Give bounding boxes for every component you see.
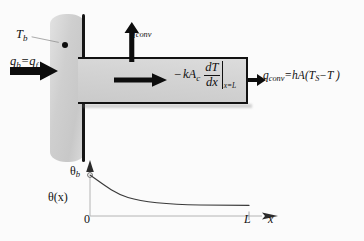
plot-label-theta-x: θ(x)	[48, 190, 68, 205]
plot-label-theta-x-text: θ(x)	[48, 190, 68, 204]
conduction-expression: − kAc dT dx x=L	[174, 61, 236, 89]
fin-shadow	[82, 104, 252, 108]
inflow-arrow	[10, 60, 60, 82]
label-convection-top-subscript: conv	[136, 30, 152, 39]
label-base-temperature-symbol: T	[16, 27, 23, 41]
conduction-arrow-right	[114, 72, 168, 88]
conduction-derivative-fraction: dT dx	[203, 61, 220, 89]
plot-label-length: L	[244, 212, 251, 227]
conduction-kac-symbol: kA	[183, 67, 196, 81]
base-temperature-leader-line	[29, 36, 63, 44]
figure-canvas: Tb qb=qf qconv − kAc dT dx x=L qconv=hA(…	[0, 0, 364, 241]
conduction-derivative-numerator: dT	[203, 61, 220, 75]
plot-label-x-axis: x	[268, 212, 273, 227]
label-convection-top: qconv	[130, 25, 151, 39]
plot-label-origin: 0	[84, 212, 90, 227]
conduction-evaluation-subscript: x=L	[224, 81, 237, 90]
conduction-minus-sign: −	[174, 68, 181, 83]
label-tip-convection: qconv=hA(TS−T )	[263, 69, 340, 83]
label-tip-convection-tail: −T )	[319, 69, 340, 81]
plot-label-theta-b-subscript: b	[76, 169, 80, 179]
plot-label-theta-b: θb	[70, 164, 80, 179]
conduction-derivative-denominator: dx	[204, 75, 220, 90]
label-base-temperature: Tb	[16, 27, 27, 43]
label-base-temperature-subscript: b	[23, 33, 28, 43]
label-tip-convection-expression: =hA(T	[284, 69, 315, 81]
conduction-kac-subscript: c	[196, 73, 200, 83]
conduction-kac: kAc	[183, 67, 200, 83]
label-tip-convection-subscript: conv	[269, 74, 285, 83]
